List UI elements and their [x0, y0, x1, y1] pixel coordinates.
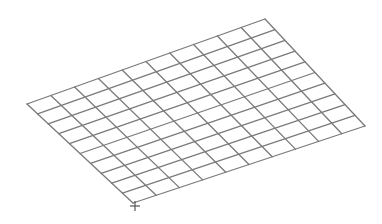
crosshair-icon — [130, 201, 140, 211]
grid-mesh — [27, 19, 365, 203]
grid-line-horizontal — [48, 40, 285, 123]
grid-line-horizontal — [27, 19, 265, 104]
grid-line-horizontal — [38, 30, 275, 114]
grid-diagram — [0, 0, 382, 224]
grid-line-horizontal — [59, 51, 295, 134]
